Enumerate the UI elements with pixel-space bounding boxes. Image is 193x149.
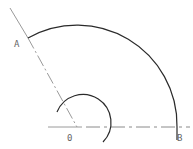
- point-label-o: 0: [67, 133, 72, 143]
- point-label-a: A: [14, 39, 20, 49]
- small-arc: [57, 94, 111, 142]
- ray-oa-dashed: [28, 38, 77, 127]
- large-arc: [28, 25, 177, 140]
- point-label-b: B: [177, 133, 182, 143]
- ray-oa-solid: [10, 8, 28, 38]
- geometry-diagram: A 0 B: [0, 0, 193, 149]
